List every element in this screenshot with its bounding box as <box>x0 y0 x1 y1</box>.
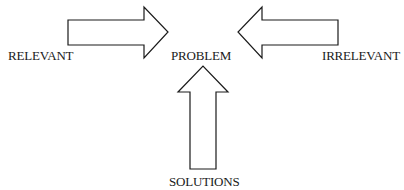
arrow-right-icon <box>68 7 168 58</box>
irrelevant-label: IRRELEVANT <box>322 49 400 62</box>
arrow-up-icon <box>178 66 228 169</box>
problem-label: PROBLEM <box>171 49 231 62</box>
diagram-canvas <box>0 0 404 190</box>
solutions-label: SOLUTIONS <box>169 175 239 188</box>
relevant-label: RELEVANT <box>8 49 73 62</box>
